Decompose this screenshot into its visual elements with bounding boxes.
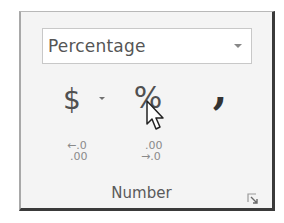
- number-format-dropdown[interactable]: Percentage: [42, 28, 252, 64]
- increase-decimal-button[interactable]: .00 →.0: [135, 136, 169, 166]
- dollar-icon: $: [63, 83, 81, 116]
- comma-style-button[interactable]: ,: [205, 80, 235, 114]
- number-ribbon-group: Percentage $ % , ←.0 .00 .00 →.0 Number: [19, 11, 275, 211]
- decrease-decimal-icon: ←.0 .00: [65, 138, 91, 164]
- accounting-format-dropdown-button[interactable]: [95, 90, 109, 106]
- percent-style-button[interactable]: %: [131, 80, 165, 114]
- percent-icon: %: [134, 80, 163, 115]
- group-label: Number: [21, 184, 272, 202]
- dialog-launcher-icon: [247, 193, 259, 205]
- decrease-decimal-line2: .00: [70, 151, 88, 162]
- chevron-down-icon: [99, 97, 105, 100]
- accounting-format-button[interactable]: $: [57, 82, 87, 116]
- decrease-decimal-button[interactable]: ←.0 .00: [61, 136, 95, 166]
- increase-decimal-icon: .00 →.0: [139, 138, 165, 164]
- chevron-down-icon[interactable]: [234, 44, 242, 48]
- comma-style-icon: ,: [213, 69, 228, 111]
- number-format-value: Percentage: [48, 36, 146, 56]
- dialog-launcher-button[interactable]: [247, 190, 259, 202]
- increase-decimal-line2: →.0: [141, 151, 161, 162]
